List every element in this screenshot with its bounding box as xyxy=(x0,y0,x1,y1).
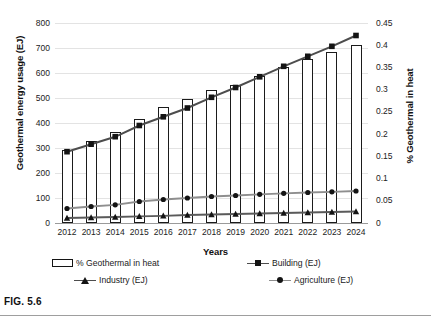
line-swatch-icon xyxy=(74,276,96,285)
legend-label: Building (EJ) xyxy=(272,258,321,268)
square-marker-icon xyxy=(137,123,143,129)
legend-label: Industry (EJ) xyxy=(99,275,148,285)
square-marker-icon xyxy=(161,114,167,120)
square-marker-icon xyxy=(64,149,70,155)
square-marker-icon xyxy=(209,95,215,101)
circle-marker-icon xyxy=(185,195,190,200)
square-marker-icon xyxy=(353,33,359,39)
circle-marker-icon xyxy=(137,199,142,204)
circle-marker-icon xyxy=(113,202,118,207)
circle-marker-icon xyxy=(281,191,286,196)
square-marker-icon xyxy=(112,134,118,140)
square-marker-icon xyxy=(257,74,263,80)
circle-marker-icon xyxy=(161,197,166,202)
legend-item-agriculture: Agriculture (EJ) xyxy=(217,275,382,285)
square-marker-icon xyxy=(281,64,287,70)
circle-marker-icon xyxy=(257,192,262,197)
square-marker-icon xyxy=(185,105,191,111)
square-marker-icon xyxy=(88,141,94,147)
legend-label: Agriculture (EJ) xyxy=(294,275,353,285)
circle-marker-icon xyxy=(277,277,283,283)
chart-legend: % Geothermal in heat Building (EJ) Indus… xyxy=(52,258,382,285)
square-marker-icon xyxy=(255,260,261,266)
figure-caption: FIG. 5.6 xyxy=(4,296,42,307)
legend-label: % Geothermal in heat xyxy=(76,258,159,268)
footer-rule xyxy=(0,315,431,316)
line-swatch-icon xyxy=(269,276,291,285)
square-marker-icon xyxy=(305,54,311,60)
triangle-marker-icon xyxy=(81,277,89,284)
circle-marker-icon xyxy=(353,188,358,193)
legend-item-geothermal-percent: % Geothermal in heat xyxy=(52,258,217,268)
bar-swatch-icon xyxy=(52,259,73,267)
circle-marker-icon xyxy=(209,194,214,199)
circle-marker-icon xyxy=(329,189,334,194)
line-swatch-icon xyxy=(247,259,269,268)
legend-item-building: Building (EJ) xyxy=(217,258,382,268)
square-marker-icon xyxy=(233,85,239,91)
circle-marker-icon xyxy=(64,206,69,211)
figure-container: Geothermal energy usage (EJ) % Geotherma… xyxy=(0,0,431,318)
circle-marker-icon xyxy=(233,193,238,198)
circle-marker-icon xyxy=(89,204,94,209)
legend-item-industry: Industry (EJ) xyxy=(52,275,217,285)
circle-marker-icon xyxy=(305,190,310,195)
line-building-ej xyxy=(67,36,356,152)
line-agriculture-ej xyxy=(67,191,356,209)
square-marker-icon xyxy=(329,44,335,50)
